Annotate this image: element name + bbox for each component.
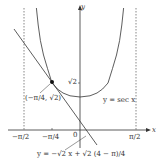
curve-label: y = sec x [103, 97, 135, 104]
tangent-line [14, 29, 97, 145]
point-label: (−π/4, √2) [25, 95, 61, 102]
x-axis-label: x [152, 127, 156, 134]
tick-label-neg-pi4: −π/4 [42, 134, 59, 141]
tangent-label: y = −√2 x + √2 (4 − π)/4 [37, 151, 125, 158]
tick-label-neg-pi2: −π/2 [12, 134, 29, 141]
point-leader [40, 84, 50, 93]
y-axis-label: y [81, 4, 85, 11]
tangent-point [50, 80, 54, 84]
tick-label-pi2: π/2 [129, 134, 140, 141]
x-axis-arrow-icon [146, 128, 151, 132]
origin-label: 0 [73, 132, 77, 139]
tick-label-sqrt2: √2 [68, 79, 77, 86]
